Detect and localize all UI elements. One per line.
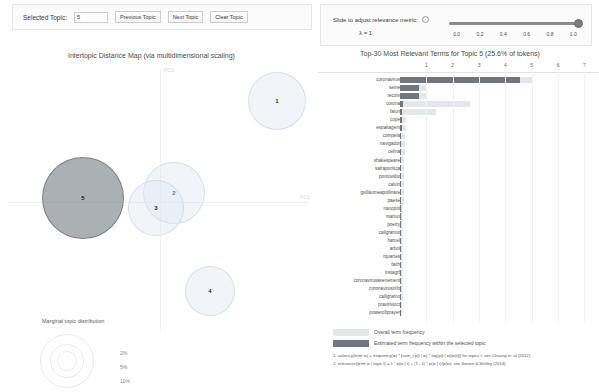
- barchart-row[interactable]: compela: [318, 132, 599, 140]
- bar-term-label[interactable]: rquartes: [383, 253, 400, 260]
- topic-circle-label: 4: [208, 288, 211, 294]
- barchart-gridline: [532, 72, 533, 322]
- bar-term-label[interactable]: pontovidio: [379, 173, 400, 180]
- barchart-gridline: [426, 72, 427, 322]
- bar-term-label[interactable]: faith: [391, 261, 400, 268]
- bar-term-label[interactable]: instagrf: [385, 269, 400, 276]
- bar-term-label[interactable]: calvin: [388, 181, 400, 188]
- bar-within-topic-frequency: [400, 117, 402, 123]
- bar-term-label[interactable]: mariun: [386, 213, 400, 220]
- bar-term-label[interactable]: corona: [386, 100, 400, 107]
- bar-term-label[interactable]: compela: [383, 132, 400, 139]
- barchart-row[interactable]: pravirivioct: [318, 301, 599, 309]
- barchart-row[interactable]: celina: [318, 148, 599, 156]
- barchart-title: Top-30 Most Relevant Terms for Topic 5 (…: [360, 50, 540, 57]
- topic-circle-4[interactable]: 4: [185, 266, 235, 316]
- topic-circle-3[interactable]: 3: [128, 180, 184, 236]
- barchart-row[interactable]: mariun: [318, 213, 599, 221]
- bar-term-label[interactable]: nanopot: [383, 205, 400, 212]
- barchart-tick-label: 7: [583, 62, 586, 68]
- bar-term-label[interactable]: calligramo: [379, 293, 400, 300]
- clear-topic-button[interactable]: Clear Topic: [210, 11, 247, 23]
- bar-term-label[interactable]: seine: [389, 84, 400, 91]
- legend-swatch-within-icon: [333, 340, 369, 347]
- selected-topic-input[interactable]: [74, 12, 108, 23]
- barchart-row[interactable]: guillaumeapollinare: [318, 189, 599, 197]
- slider-tick: 0.4: [492, 31, 515, 37]
- slider-handle[interactable]: [574, 19, 583, 28]
- bar-term-label[interactable]: poweroftprayer: [369, 309, 400, 316]
- bar-term-label[interactable]: celina: [388, 148, 400, 155]
- barchart-tick-label: 2: [451, 62, 454, 68]
- bar-term-label[interactable]: caligramto: [379, 229, 400, 236]
- bar-within-topic-frequency: [400, 270, 401, 276]
- next-topic-button[interactable]: Next Topic: [168, 11, 204, 23]
- topic-circle-1[interactable]: 1: [248, 72, 306, 130]
- barchart-row[interactable]: pontovidio: [318, 173, 599, 181]
- bar-overall-frequency: [400, 101, 470, 107]
- bar-term-label[interactable]: poetry: [387, 221, 400, 228]
- bar-term-label[interactable]: guillaumeapollinare: [360, 189, 400, 196]
- barchart-row[interactable]: seine: [318, 84, 599, 92]
- barchart-row[interactable]: hamel: [318, 237, 599, 245]
- barchart-gridline: [505, 72, 506, 322]
- slider-track[interactable]: [449, 22, 579, 25]
- barchart-row[interactable]: nanopot: [318, 205, 599, 213]
- previous-topic-button[interactable]: Previous Topic: [115, 11, 161, 23]
- slider-tick: 0.0: [445, 31, 468, 37]
- bar-term-label[interactable]: shakespeare: [374, 157, 400, 164]
- bar-term-label[interactable]: hamel: [387, 237, 400, 244]
- barchart-row[interactable]: coronavirusinfo: [318, 285, 599, 293]
- bar-term-label[interactable]: pravirivioct: [378, 301, 400, 308]
- barchart-row[interactable]: cope: [318, 116, 599, 124]
- barchart-row[interactable]: calligramo: [318, 293, 599, 301]
- bar-within-topic-frequency: [400, 181, 401, 187]
- bar-within-topic-frequency: [400, 141, 401, 147]
- selected-topic-label: Selected Topic:: [23, 14, 67, 21]
- bar-term-label[interactable]: satrapontica: [375, 165, 400, 172]
- relevance-slider[interactable]: 0.0 0.2 0.4 0.6 0.8 1.0: [449, 18, 581, 42]
- relevance-slider-caption: Slide to adjust relevance metric: i: [333, 16, 429, 23]
- topic-circle-5[interactable]: 5: [42, 157, 124, 239]
- bar-within-topic-frequency: [400, 213, 401, 219]
- barchart-row[interactable]: satrapontica: [318, 165, 599, 173]
- info-icon[interactable]: i: [422, 16, 429, 23]
- bar-within-topic-frequency: [400, 254, 401, 260]
- barchart-gridline: [453, 72, 454, 322]
- barchart-row[interactable]: instagrf: [318, 269, 599, 277]
- barchart-row[interactable]: poweroftprayer: [318, 309, 599, 317]
- bar-term-label[interactable]: arbol: [390, 245, 400, 252]
- barchart-row[interactable]: coronavirusavenement: [318, 277, 599, 285]
- slider-tick-labels: 0.0 0.2 0.4 0.6 0.8 1.0: [445, 31, 585, 37]
- intertopic-distance-map[interactable]: PC2 PC1 52314: [0, 62, 318, 332]
- bar-term-label[interactable]: recoin: [387, 92, 400, 99]
- barchart-row[interactable]: shakespeare: [318, 157, 599, 165]
- bar-term-label[interactable]: paese: [387, 197, 400, 204]
- bar-term-label[interactable]: coronavirusavenement: [354, 277, 400, 284]
- barchart-row[interactable]: rquartes: [318, 253, 599, 261]
- legend-overall: Overall term frequency: [333, 328, 425, 336]
- barchart-row[interactable]: paese: [318, 197, 599, 205]
- bar-term-label[interactable]: espaltagem: [376, 124, 400, 131]
- barchart-row[interactable]: espaltagem: [318, 124, 599, 132]
- barchart-row[interactable]: falun: [318, 108, 599, 116]
- barchart-tick-label: 4: [504, 62, 507, 68]
- bar-term-label[interactable]: coronavirus: [376, 76, 400, 83]
- barchart-gridline: [558, 72, 559, 322]
- bar-term-label[interactable]: cope: [390, 116, 400, 123]
- barchart-row[interactable]: coronavirus: [318, 76, 599, 84]
- barchart-row[interactable]: poetry: [318, 221, 599, 229]
- barchart-row[interactable]: caligramto: [318, 229, 599, 237]
- barchart-row[interactable]: arbol: [318, 245, 599, 253]
- legend-within-label: Estimated term frequency within the sele…: [374, 340, 485, 346]
- barchart-tick-label: 3: [478, 62, 481, 68]
- bar-within-topic-frequency: [400, 189, 401, 195]
- barchart-row[interactable]: corona: [318, 100, 599, 108]
- barchart-row[interactable]: calvin: [318, 181, 599, 189]
- barchart-row[interactable]: faith: [318, 261, 599, 269]
- bar-term-label[interactable]: navigador: [380, 140, 400, 147]
- bar-term-label[interactable]: coronavirusinfo: [369, 285, 400, 292]
- bar-term-label[interactable]: falun: [390, 108, 400, 115]
- barchart-row[interactable]: navigador: [318, 140, 599, 148]
- barchart-row[interactable]: recoin: [318, 92, 599, 100]
